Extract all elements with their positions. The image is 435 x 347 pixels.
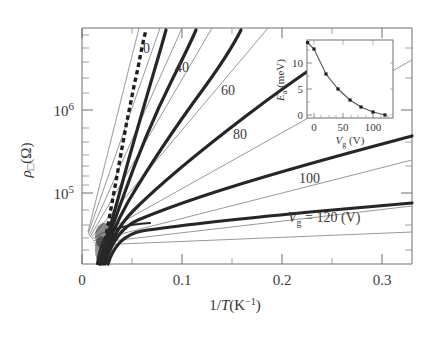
x-tick-label-0: 0 [78, 272, 86, 288]
x-tick-labels: 0 0.1 0.2 0.3 [78, 272, 391, 288]
curve-label-60: 60 [221, 83, 235, 98]
y-tick-labels: 106 105 [54, 100, 75, 202]
inset-x-tick-0: 0 [311, 121, 317, 133]
x-axis-title: 1/T(K−1) [209, 296, 260, 314]
inset-y-tick-10: 10 [292, 57, 304, 69]
x-tick-label-0p3: 0.3 [373, 272, 392, 288]
vg-label-value: = 120 (V) [302, 210, 361, 226]
x-tick-label-0p1: 0.1 [173, 272, 192, 288]
arrhenius-resistivity-figure: 106 105 ρ□(Ω) [0, 0, 435, 347]
curve-label-40: 40 [175, 60, 189, 75]
figure-svg: 106 105 ρ□(Ω) [0, 0, 435, 347]
y-tick-label-1e5-base: 10 [54, 186, 69, 202]
inset-frame [307, 40, 393, 118]
inset-x-axis-title: Vg (V) [336, 134, 365, 149]
inset-plot: 0 50 100 0 5 10 Ea (meV) Vg (V) [274, 40, 393, 149]
inset-x-tick-100: 100 [365, 121, 382, 133]
inset-y-tick-0: 0 [298, 109, 304, 121]
curve-vg-100 [105, 136, 412, 264]
inset-x-tick-50: 50 [338, 121, 350, 133]
inset-y-tick-5: 5 [298, 83, 304, 95]
curve-label-100: 100 [299, 171, 320, 186]
curve-label-0: 0 [143, 41, 150, 56]
svg-text:105: 105 [54, 183, 75, 202]
svg-text:1/T(K−1): 1/T(K−1) [209, 296, 260, 314]
curve-label-80: 80 [233, 127, 247, 142]
svg-text:ρ□(Ω): ρ□(Ω) [18, 142, 36, 178]
svg-text:106: 106 [54, 100, 75, 119]
y-tick-label-1e6-base: 10 [54, 103, 69, 119]
inset-y-axis-title: Ea (meV) [274, 59, 289, 102]
y-axis-title: ρ□(Ω) [18, 142, 36, 178]
x-tick-label-0p2: 0.2 [273, 272, 292, 288]
